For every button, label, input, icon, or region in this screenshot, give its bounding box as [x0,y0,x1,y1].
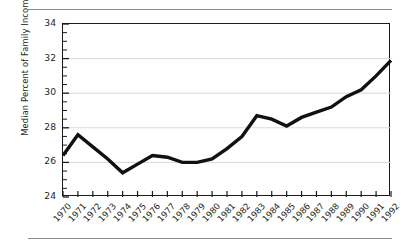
data-line-series [63,60,391,172]
y-axis-tick-label: 24 [34,190,56,201]
figure-top-rule [28,9,392,10]
plot-area [62,23,390,196]
y-axis-minor-ticks [63,33,67,189]
y-axis-tick-label: 30 [34,86,56,97]
y-axis-title: Median Percent of Family Income [20,0,30,150]
x-axis-ticks [63,191,391,197]
y-axis-tick-label: 34 [34,17,56,28]
y-axis-tick-label: 26 [34,155,56,166]
figure-bottom-rule [28,238,392,239]
y-axis-tick-label: 32 [34,52,56,63]
line-chart [63,24,391,197]
y-axis-tick-label: 28 [34,121,56,132]
figure: Median Percent of Family Income 24262830… [0,0,420,247]
